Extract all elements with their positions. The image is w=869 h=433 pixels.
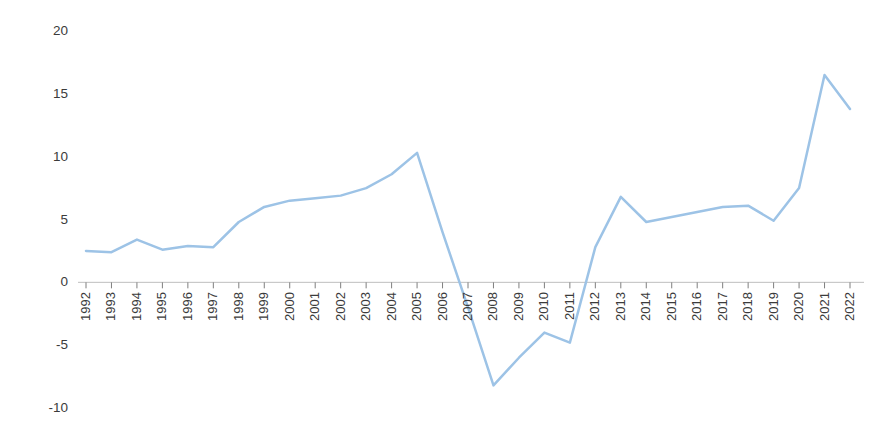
x-axis-tick-label: 2007 (461, 292, 474, 321)
x-axis-tick-label: 2022 (843, 292, 856, 321)
y-axis-tick-label: 0 (28, 276, 68, 290)
x-axis-tick-label: 2011 (563, 292, 576, 320)
x-axis-tick-label: 2002 (334, 292, 347, 321)
x-axis-tick-label: 1994 (130, 292, 143, 321)
x-axis-tick-label: 2020 (792, 292, 805, 321)
y-axis-tick-label: -5 (28, 338, 68, 352)
x-axis-tick-label: 2018 (741, 292, 754, 321)
x-axis-tick-label: 2005 (410, 292, 423, 321)
x-axis-tick-label: 2021 (818, 292, 831, 321)
x-axis-tick-label: 1998 (232, 292, 245, 321)
x-axis-tick-label: 2013 (614, 292, 627, 321)
x-axis-tick-label: 2012 (588, 292, 601, 321)
x-axis-tick-label: 2019 (767, 292, 780, 321)
x-axis-tick-label: 2015 (665, 292, 678, 321)
x-axis-tick-label: 1995 (155, 292, 168, 321)
x-axis-tick-label: 1993 (104, 292, 117, 321)
x-axis-tick-label: 2010 (537, 292, 550, 321)
x-axis-tick-label: 2004 (385, 292, 398, 321)
x-axis-tick-label: 1999 (257, 292, 270, 321)
y-axis-tick-label: 20 (28, 24, 68, 38)
x-axis-tick-label: 2006 (436, 292, 449, 321)
y-axis-tick-label: 5 (28, 213, 68, 227)
y-axis-tick-label: -10 (28, 401, 68, 415)
x-axis-tick-label: 1996 (181, 292, 194, 321)
y-axis: 20151050-5-10 (22, 0, 68, 433)
x-axis-tick-label: 2000 (283, 292, 296, 321)
x-axis-tick-label: 2008 (486, 292, 499, 321)
x-axis-tick-label: 2009 (512, 292, 525, 321)
y-axis-tick-label: 10 (28, 150, 68, 164)
x-axis-tick-label: 2003 (359, 292, 372, 321)
y-axis-tick-label: 15 (28, 87, 68, 101)
x-axis-tick-label: 1997 (206, 292, 219, 321)
x-axis: 1992199319941995199619971998199920002001… (78, 292, 864, 382)
line-chart: 20151050-5-10 19921993199419951996199719… (0, 0, 869, 433)
x-axis-tick-label: 2016 (690, 292, 703, 321)
x-axis-tick-label: 1992 (79, 292, 92, 321)
x-axis-tick-label: 2014 (639, 292, 652, 321)
x-axis-tick-label: 2017 (716, 292, 729, 321)
x-axis-tick-label: 2001 (308, 292, 321, 321)
